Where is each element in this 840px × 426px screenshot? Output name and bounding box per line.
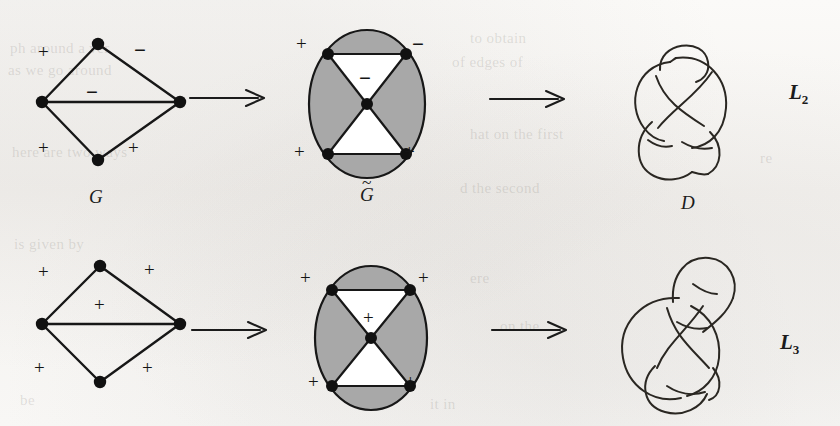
- edge-lower-left: [42, 102, 98, 160]
- sign-G-lower-right: +: [128, 138, 139, 157]
- vertex-center: [365, 332, 377, 344]
- vertex-bottom: [94, 376, 106, 388]
- sign-Gt-upper-right: −: [412, 34, 424, 55]
- link-label-L3-base: L: [780, 330, 793, 354]
- link-label-L3-sub: 3: [793, 342, 800, 357]
- edge-lower-left: [42, 324, 100, 382]
- vertex-left: [36, 318, 48, 330]
- figure-root: to obtain of edges of ph around a ver as…: [0, 0, 840, 426]
- link-label-L2-base: L: [789, 80, 802, 104]
- vertex-top: [94, 260, 106, 272]
- label-G-tilde: ~G: [360, 184, 374, 206]
- link-label-L3: L3: [780, 330, 799, 358]
- sign-bottom-medial-middle: +: [363, 308, 374, 327]
- vertex-top: [92, 38, 104, 50]
- strand-left-circle: [622, 298, 681, 399]
- ghost-text-8: is given by: [14, 236, 84, 253]
- sign-bottom-medial-lower-right: +: [405, 372, 416, 391]
- sign-G-lower-left: +: [38, 138, 49, 157]
- ghost-text-7: d the second: [460, 180, 540, 197]
- ghost-text-5: hat on the first: [470, 126, 563, 143]
- strand-twist-b: [658, 72, 712, 128]
- strand-upper-lobe-right: [703, 298, 733, 332]
- arrow-graph-to-medial-bottom: [190, 318, 272, 342]
- vertex-right: [174, 318, 186, 330]
- sign-bottom-graph-lower-right: +: [142, 358, 153, 377]
- sign-Gt-upper-left: +: [296, 34, 307, 53]
- sign-bottom-medial-lower-left: +: [308, 372, 319, 391]
- sign-bottom-medial-upper-left: +: [300, 268, 311, 287]
- vertex-upper-right: [404, 284, 416, 296]
- arrow-medial-to-diagram-bottom: [490, 318, 572, 342]
- sign-Gt-lower-right: +: [404, 142, 415, 161]
- vertex-lower-left: [322, 148, 334, 160]
- sign-Gt-middle: −: [359, 68, 371, 89]
- sign-G-middle: −: [86, 82, 98, 103]
- ghost-text-11: be: [20, 392, 35, 409]
- edge-lower-right: [100, 324, 180, 382]
- ghost-text-6: re: [760, 150, 772, 167]
- ghost-text-12: it in: [430, 396, 456, 413]
- vertex-right: [174, 96, 186, 108]
- strand-top-loop: [660, 45, 708, 82]
- signed-graph-G: [30, 32, 200, 172]
- label-G: G: [89, 186, 103, 208]
- vertex-center: [361, 98, 373, 110]
- strand-gap-1: [677, 322, 707, 329]
- sign-bottom-graph-upper-right: +: [144, 260, 155, 279]
- ghost-text-0: to obtain: [470, 30, 527, 47]
- edge-upper-left: [42, 266, 100, 324]
- ghost-text-9: ere: [470, 270, 490, 287]
- sign-G-upper-left: +: [38, 42, 49, 61]
- sign-bottom-graph-lower-left: +: [34, 358, 45, 377]
- link-label-L2: L2: [789, 80, 808, 108]
- vertex-upper-left: [322, 48, 334, 60]
- arrow-medial-to-diagram-top: [488, 87, 570, 111]
- signed-graph-all-plus: [34, 252, 204, 392]
- ghost-text-1: of edges of: [452, 54, 523, 71]
- sign-bottom-graph-middle: +: [94, 295, 105, 314]
- vertex-upper-left: [326, 284, 338, 296]
- sign-Gt-lower-left: +: [294, 142, 305, 161]
- strand-twist-a: [667, 308, 709, 368]
- link-diagram-bottom: [605, 240, 755, 420]
- strand-upper-circle-top: [670, 58, 676, 62]
- sign-bottom-graph-upper-left: +: [38, 262, 49, 281]
- vertex-left: [36, 96, 48, 108]
- sign-G-upper-right: −: [134, 40, 146, 61]
- strand-gap-3: [693, 284, 717, 294]
- edge-lower-right: [98, 102, 180, 160]
- strand-lower-connect: [692, 172, 708, 174]
- tilde-accent: ~: [362, 172, 371, 193]
- link-label-L2-sub: 2: [802, 92, 809, 107]
- vertex-lower-left: [326, 380, 338, 392]
- vertex-upper-right: [400, 48, 412, 60]
- sign-bottom-medial-upper-right: +: [418, 268, 429, 287]
- edge-upper-right: [100, 266, 180, 324]
- link-diagram-D: [612, 22, 744, 188]
- strand-twist-a: [656, 76, 704, 126]
- strand-bottom-lobe-left: [645, 366, 707, 413]
- strand-upper-lobe-left: [673, 258, 735, 302]
- arrow-graph-to-medial-top: [188, 86, 270, 110]
- vertex-bottom: [92, 154, 104, 166]
- strand-upper-circle-left: [635, 62, 670, 141]
- label-D: D: [681, 192, 695, 214]
